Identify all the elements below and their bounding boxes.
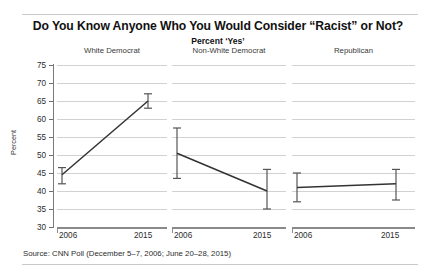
source-note: Source: CNN Poll (December 5–7, 2006; Ju…: [23, 249, 231, 258]
series-layer: [0, 0, 436, 271]
error-bar: [58, 168, 66, 184]
series-line-republican: [297, 184, 396, 188]
series-line-white-democrat: [62, 101, 148, 175]
error-bar: [392, 169, 400, 200]
chart-figure: Do You Know Anyone Who You Would Conside…: [0, 0, 436, 271]
bottom-divider: [22, 264, 418, 265]
series-line-non-white-democrat: [177, 153, 267, 191]
